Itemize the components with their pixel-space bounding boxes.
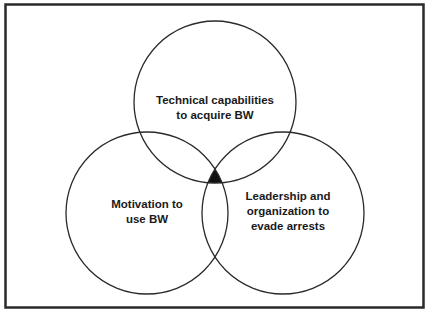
diagram-border — [6, 5, 424, 308]
label-technical-capabilities: Technical capabilities to acquire BW — [145, 93, 285, 123]
label-motivation: Motivation to use BW — [92, 197, 202, 227]
label-leadership: Leadership and organization to evade arr… — [228, 189, 348, 234]
venn-diagram — [0, 0, 429, 313]
